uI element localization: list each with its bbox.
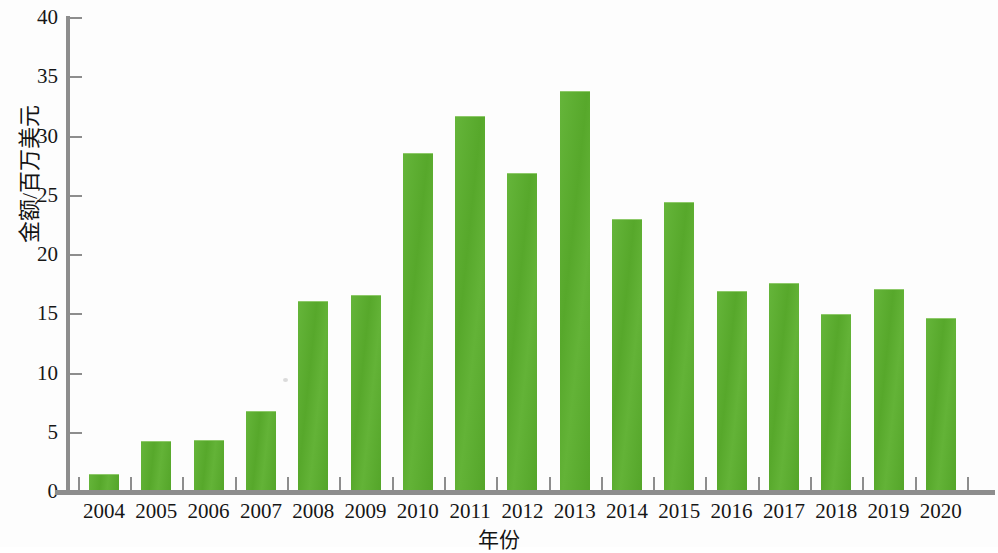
x-axis-tick — [705, 477, 707, 491]
x-axis-tick — [915, 477, 917, 491]
bar — [926, 318, 956, 492]
scan-artifact-speck — [283, 378, 288, 382]
bar — [298, 301, 328, 492]
bar — [664, 202, 694, 492]
bar — [874, 289, 904, 492]
bar — [769, 283, 799, 492]
bar — [246, 411, 276, 492]
bar — [612, 219, 642, 492]
x-axis-tick — [78, 477, 80, 491]
x-axis-tick — [810, 477, 812, 491]
bar — [560, 91, 590, 492]
bar — [141, 441, 171, 492]
x-axis-tick — [862, 477, 864, 491]
bar — [194, 440, 224, 492]
x-axis-tick — [235, 477, 237, 491]
x-axis-title: 年份 — [0, 523, 998, 553]
x-axis-tick — [287, 477, 289, 491]
bar — [821, 314, 851, 492]
bar — [507, 173, 537, 492]
x-axis-tick — [182, 477, 184, 491]
x-axis-tick — [967, 477, 969, 491]
x-axis-tick — [601, 477, 603, 491]
bar — [717, 291, 747, 492]
x-axis-tick-label: 2020 — [906, 500, 976, 522]
x-axis-tick — [549, 477, 551, 491]
x-axis-tick — [392, 477, 394, 491]
x-axis-line — [55, 490, 995, 495]
x-axis-tick — [444, 477, 446, 491]
x-axis-tick — [339, 477, 341, 491]
x-axis-tick — [758, 477, 760, 491]
bar — [455, 116, 485, 492]
x-axis-tick — [130, 477, 132, 491]
x-axis-tick — [653, 477, 655, 491]
x-axis-tick — [496, 477, 498, 491]
bar — [403, 153, 433, 492]
bar — [351, 295, 381, 492]
